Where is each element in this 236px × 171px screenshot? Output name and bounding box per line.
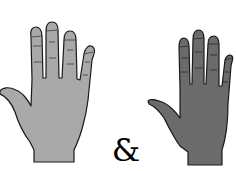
- right-hand-illustration: [118, 0, 236, 171]
- left-hand-illustration: [0, 0, 118, 171]
